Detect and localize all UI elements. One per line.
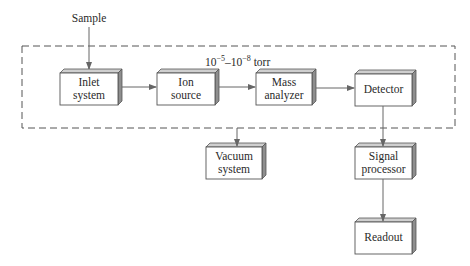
pressure-unit: torr — [251, 56, 270, 68]
vacuum-line2: system — [215, 163, 253, 177]
ion-source-block: Ionsource — [157, 73, 215, 105]
inlet-line1: Inlet — [73, 76, 105, 90]
pressure-dash: –10 — [225, 56, 242, 68]
readout-line1: Readout — [364, 231, 402, 245]
inlet-system-block: Inletsystem — [60, 73, 118, 105]
pressure-exp2: −8 — [242, 54, 251, 63]
pressure-label: 10−5–10−8 torr — [205, 52, 315, 69]
inlet-line2: system — [73, 89, 105, 103]
vacuum-system-block: Vacuumsystem — [206, 147, 262, 179]
pressure-exp1: −5 — [217, 54, 226, 63]
detector-line1: Detector — [364, 83, 404, 97]
signal-line1: Signal — [361, 150, 405, 164]
mass-line2: analyzer — [265, 89, 304, 103]
detector-block: Detector — [355, 74, 412, 106]
pressure-base: 10 — [205, 56, 217, 68]
mass-line1: Mass — [265, 76, 304, 90]
signal-line2: processor — [361, 163, 405, 177]
ion-line2: source — [171, 89, 201, 103]
vacuum-line1: Vacuum — [215, 150, 253, 164]
sample-label: Sample — [66, 12, 112, 25]
readout-block: Readout — [355, 222, 412, 254]
signal-processor-block: Signalprocessor — [355, 147, 412, 179]
mass-analyzer-block: Massanalyzer — [256, 73, 312, 105]
ion-line1: Ion — [171, 76, 201, 90]
